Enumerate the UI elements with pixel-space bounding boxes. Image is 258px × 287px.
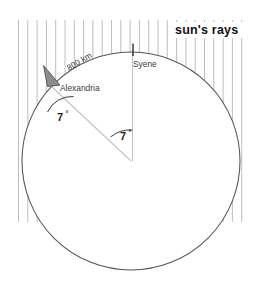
- diagram-canvas: sun's rays Syene Alexandria 800 km 7 ° 7…: [0, 0, 258, 287]
- syene-label: Syene: [133, 59, 157, 69]
- angle-alexandria-value: 7: [57, 111, 63, 123]
- alexandria-label: Alexandria: [60, 83, 100, 93]
- alexandria-obelisk-shadow-icon: [44, 66, 61, 87]
- eratosthenes-earth-circumference-diagram: sun's rays Syene Alexandria 800 km 7 ° 7…: [0, 0, 258, 287]
- angle-center-degree-symbol: °: [129, 129, 132, 136]
- angle-alexandria-degree-symbol: °: [66, 110, 69, 117]
- sun-rays-label: sun's rays: [175, 23, 238, 37]
- angle-center-value: 7: [120, 130, 126, 142]
